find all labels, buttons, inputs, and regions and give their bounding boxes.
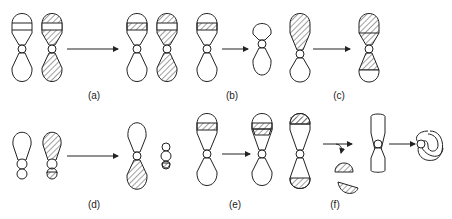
panel-b-chromosome bbox=[197, 14, 217, 82]
arrow-f-curved bbox=[336, 144, 341, 153]
panel-d-chromosome-1 bbox=[13, 132, 31, 179]
panel-e-chromosome bbox=[197, 114, 217, 186]
panel-a-chromosome-1 bbox=[12, 14, 32, 82]
fragment-2 bbox=[338, 182, 358, 193]
panel-d-result-small bbox=[161, 143, 171, 169]
panel-f-chromosome bbox=[290, 114, 310, 189]
panel-e-result bbox=[252, 114, 272, 186]
panel-f-result bbox=[371, 114, 385, 172]
panel-c-chromosome bbox=[290, 14, 310, 83]
panel-a-result-1 bbox=[127, 14, 147, 82]
label-c: (c) bbox=[333, 90, 345, 101]
panel-c-result bbox=[359, 14, 379, 83]
label-d: (d) bbox=[88, 199, 100, 210]
fragment-1 bbox=[335, 163, 353, 172]
panel-a-result-2 bbox=[157, 14, 177, 82]
panel-a-chromosome-2 bbox=[42, 14, 62, 82]
label-b: (b) bbox=[226, 90, 238, 101]
panel-b-result bbox=[253, 24, 271, 76]
label-e: (e) bbox=[229, 199, 241, 210]
chromosome-diagram bbox=[0, 0, 452, 219]
label-f: (f) bbox=[330, 199, 339, 210]
panel-d-result-fused bbox=[127, 123, 147, 190]
panel-d-chromosome-2 bbox=[43, 132, 61, 179]
ring-chromosome bbox=[416, 131, 443, 160]
label-a: (a) bbox=[88, 90, 100, 101]
